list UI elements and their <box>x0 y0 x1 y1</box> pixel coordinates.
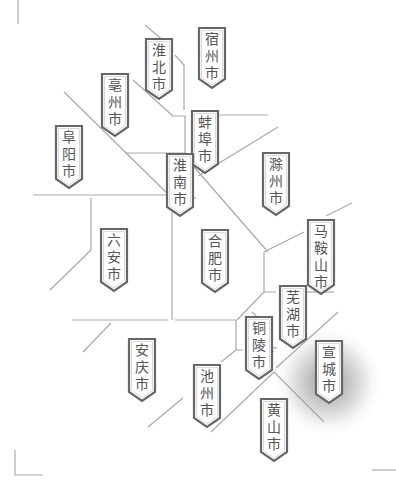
city-label-xuancheng[interactable]: 宣城市 <box>315 340 345 404</box>
city-name-char: 州 <box>193 385 220 402</box>
city-name-char: 马 <box>307 223 334 240</box>
city-name: 六安市 <box>100 232 127 283</box>
city-name-char: 黄 <box>260 402 287 419</box>
city-name-char: 北 <box>145 59 172 76</box>
city-name: 宣城市 <box>315 344 342 395</box>
city-name-char: 六 <box>100 232 127 249</box>
city-name-char: 亳 <box>101 77 128 94</box>
city-name-char: 市 <box>201 267 228 284</box>
city-label-huaibei[interactable]: 淮北市 <box>145 38 175 100</box>
city-name-char: 市 <box>166 191 193 208</box>
city-name-char: 湖 <box>279 306 306 323</box>
city-name-char: 市 <box>145 76 172 93</box>
city-label-chuzhou[interactable]: 滁州市 <box>262 152 292 216</box>
city-name: 马鞍山市 <box>307 223 334 291</box>
city-label-huangshan[interactable]: 黄山市 <box>260 398 290 462</box>
city-name-char: 宿 <box>198 31 225 48</box>
city-name-char: 山 <box>307 257 334 274</box>
city-name: 淮北市 <box>145 42 172 93</box>
city-label-anqing[interactable]: 安庆市 <box>128 338 158 402</box>
city-name-char: 淮 <box>145 42 172 59</box>
city-label-suzhou[interactable]: 宿州市 <box>198 27 228 89</box>
city-name: 黄山市 <box>260 402 287 453</box>
city-name: 阜阳市 <box>55 129 82 180</box>
city-label-maanshan[interactable]: 马鞍山市 <box>307 219 337 295</box>
city-name-char: 市 <box>55 163 82 180</box>
city-name-char: 芜 <box>279 289 306 306</box>
city-name: 宿州市 <box>198 31 225 82</box>
city-name: 合肥市 <box>201 233 228 284</box>
city-name-char: 阜 <box>55 129 82 146</box>
city-name-char: 合 <box>201 233 228 250</box>
city-name-char: 城 <box>315 361 342 378</box>
city-label-tongling[interactable]: 铜陵市 <box>245 316 275 380</box>
city-name: 亳州市 <box>101 77 128 128</box>
city-label-fuyang[interactable]: 阜阳市 <box>55 125 85 189</box>
city-name-char: 市 <box>307 274 334 291</box>
city-name-char: 安 <box>128 342 155 359</box>
city-name-char: 滁 <box>262 156 289 173</box>
city-name-char: 池 <box>193 368 220 385</box>
city-label-wuhu[interactable]: 芜湖市 <box>279 285 309 349</box>
city-name-char: 宣 <box>315 344 342 361</box>
city-label-hefei[interactable]: 合肥市 <box>201 229 231 293</box>
city-name: 芜湖市 <box>279 289 306 340</box>
city-name-char: 安 <box>100 249 127 266</box>
city-name-char: 陵 <box>245 337 272 354</box>
city-name-char: 市 <box>315 378 342 395</box>
city-name-char: 州 <box>262 173 289 190</box>
city-name-char: 庆 <box>128 359 155 376</box>
city-name-char: 市 <box>128 376 155 393</box>
city-name-char: 市 <box>260 436 287 453</box>
city-name: 安庆市 <box>128 342 155 393</box>
city-name-char: 市 <box>262 190 289 207</box>
city-name-char: 市 <box>193 402 220 419</box>
city-name-char: 市 <box>100 266 127 283</box>
city-label-chizhou[interactable]: 池州市 <box>193 364 223 428</box>
anhui-map: 宿州市 淮北市 亳州市 阜阳市 蚌埠市 淮南市 滁州市 <box>0 0 396 482</box>
city-name-char: 埠 <box>191 131 218 148</box>
city-name-char: 铜 <box>245 320 272 337</box>
city-name-char: 南 <box>166 174 193 191</box>
city-name-char: 州 <box>198 48 225 65</box>
city-name-char: 市 <box>245 354 272 371</box>
city-name-char: 阳 <box>55 146 82 163</box>
city-name-char: 市 <box>101 111 128 128</box>
city-name: 滁州市 <box>262 156 289 207</box>
city-name-char: 蚌 <box>191 114 218 131</box>
city-name-char: 鞍 <box>307 240 334 257</box>
city-name-char: 山 <box>260 419 287 436</box>
city-name-char: 肥 <box>201 250 228 267</box>
city-name-char: 淮 <box>166 157 193 174</box>
city-name: 池州市 <box>193 368 220 419</box>
city-label-luan[interactable]: 六安市 <box>100 228 130 292</box>
city-name-char: 州 <box>101 94 128 111</box>
city-label-huainan[interactable]: 淮南市 <box>166 153 196 217</box>
city-name: 淮南市 <box>166 157 193 208</box>
city-name: 铜陵市 <box>245 320 272 371</box>
city-name-char: 市 <box>279 323 306 340</box>
city-name-char: 市 <box>198 65 225 82</box>
city-label-bozhou[interactable]: 亳州市 <box>101 73 131 137</box>
